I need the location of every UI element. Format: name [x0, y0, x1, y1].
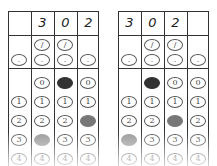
digit-bubble-0[interactable]: 0: [190, 77, 206, 89]
decimal-bubble[interactable]: .: [167, 54, 183, 66]
digit-bubble-0[interactable]: 0: [144, 77, 160, 89]
column-header-digit: 3: [118, 11, 141, 35]
digit-bubble-3[interactable]: 3: [34, 134, 50, 146]
digit-bubble-0[interactable]: 0: [34, 77, 50, 89]
digit-bubble-2[interactable]: 2: [167, 115, 183, 127]
column-header-digit: 0: [54, 11, 77, 35]
grid-column: 2/.01234: [164, 11, 187, 166]
digit-bubble-2[interactable]: 2: [80, 115, 96, 127]
grid-column: 0/.01234: [141, 11, 164, 166]
column-header-digit: [187, 11, 210, 35]
digit-bubble-1[interactable]: 1: [121, 96, 137, 108]
digit-bubble-1[interactable]: 1: [167, 96, 183, 108]
grid-column: .1234: [8, 11, 31, 166]
digit-bubble-4[interactable]: 4: [121, 153, 137, 165]
slash-bubble[interactable]: /: [167, 39, 183, 51]
digit-bubble-0[interactable]: 0: [80, 77, 96, 89]
answer-grid-right: 3.12340/.012342/.01234.01234: [118, 11, 210, 166]
digit-bubble-3[interactable]: 3: [57, 134, 73, 146]
grid-column: 3/.01234: [31, 11, 54, 166]
digit-bubble-1[interactable]: 1: [190, 96, 206, 108]
decimal-bubble[interactable]: .: [121, 54, 137, 66]
digit-bubble-4[interactable]: 4: [57, 153, 73, 165]
digit-bubble-1[interactable]: 1: [11, 96, 27, 108]
digit-bubble-3[interactable]: 3: [121, 134, 137, 146]
decimal-bubble[interactable]: .: [144, 54, 160, 66]
digit-bubble-3[interactable]: 3: [80, 134, 96, 146]
digit-bubble-2[interactable]: 2: [144, 115, 160, 127]
column-header-digit: 2: [164, 11, 187, 35]
grid-column: 2.01234: [77, 11, 100, 166]
digit-bubble-2[interactable]: 2: [57, 115, 73, 127]
grid-column: 0/.01234: [54, 11, 77, 166]
digit-bubble-0[interactable]: 0: [167, 77, 183, 89]
column-header-digit: 3: [31, 11, 54, 35]
decimal-bubble[interactable]: .: [11, 54, 27, 66]
digit-bubble-1[interactable]: 1: [34, 96, 50, 108]
digit-bubble-1[interactable]: 1: [80, 96, 96, 108]
digit-bubble-3[interactable]: 3: [190, 134, 206, 146]
digit-bubble-4[interactable]: 4: [167, 153, 183, 165]
digit-bubble-2[interactable]: 2: [190, 115, 206, 127]
digit-bubble-4[interactable]: 4: [34, 153, 50, 165]
digit-bubble-2[interactable]: 2: [121, 115, 137, 127]
slash-bubble[interactable]: /: [57, 39, 73, 51]
digit-bubble-2[interactable]: 2: [11, 115, 27, 127]
decimal-bubble[interactable]: .: [190, 54, 206, 66]
digit-bubble-4[interactable]: 4: [190, 153, 206, 165]
digit-bubble-3[interactable]: 3: [11, 134, 27, 146]
decimal-bubble[interactable]: .: [34, 54, 50, 66]
column-header-digit: 2: [77, 11, 100, 35]
digit-bubble-1[interactable]: 1: [57, 96, 73, 108]
grid-column: .01234: [187, 11, 210, 166]
digit-bubble-3[interactable]: 3: [167, 134, 183, 146]
digit-bubble-1[interactable]: 1: [144, 96, 160, 108]
column-header-digit: 0: [141, 11, 164, 35]
digit-bubble-4[interactable]: 4: [80, 153, 96, 165]
column-header-digit: [8, 11, 31, 35]
answer-grid-left: .12343/.012340/.012342.01234: [8, 11, 100, 166]
grid-column: 3.1234: [118, 11, 141, 166]
digit-bubble-4[interactable]: 4: [11, 153, 27, 165]
slash-bubble[interactable]: /: [34, 39, 50, 51]
slash-bubble[interactable]: /: [144, 39, 160, 51]
decimal-bubble[interactable]: .: [57, 54, 73, 66]
digit-bubble-2[interactable]: 2: [34, 115, 50, 127]
digit-bubble-3[interactable]: 3: [144, 134, 160, 146]
decimal-bubble[interactable]: .: [80, 54, 96, 66]
digit-bubble-4[interactable]: 4: [144, 153, 160, 165]
digit-bubble-0[interactable]: 0: [57, 77, 73, 89]
